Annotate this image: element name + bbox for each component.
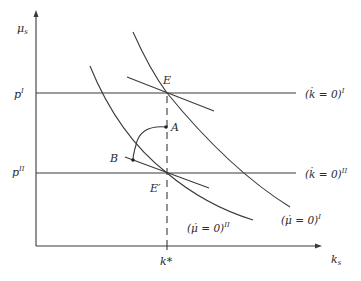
x-axis-arrow-icon: [315, 244, 322, 249]
mudot-II-label: (μ̇ = 0)II: [187, 221, 230, 234]
point-A-label: A: [170, 121, 179, 134]
k-star-label: k*: [160, 255, 173, 268]
kdot-II-label: (k̇ = 0)II: [305, 166, 347, 180]
p-II-label: pII: [12, 165, 25, 179]
trajectory-arc: [133, 127, 166, 160]
point-E-prime-label: E′: [149, 182, 161, 195]
phase-diagram: μs ks pI pII k* E E′ A B (k̇ = 0)I (k̇ =…: [0, 0, 361, 281]
point-E-label: E: [162, 74, 171, 87]
point-B-dot: [131, 158, 135, 162]
point-A-dot: [164, 125, 168, 129]
mudot-zero-curve-I: [133, 32, 290, 207]
p-I-label: pI: [14, 87, 24, 101]
kdot-I-label: (k̇ = 0)I: [305, 86, 345, 100]
y-axis-label: μs: [17, 22, 28, 36]
x-axis-label: ks: [331, 253, 342, 267]
y-axis-arrow-icon: [34, 10, 39, 17]
mudot-zero-curve-II: [90, 66, 253, 220]
mudot-I-label: (μ̇ = 0)I: [281, 213, 321, 226]
point-B-label: B: [109, 152, 118, 165]
